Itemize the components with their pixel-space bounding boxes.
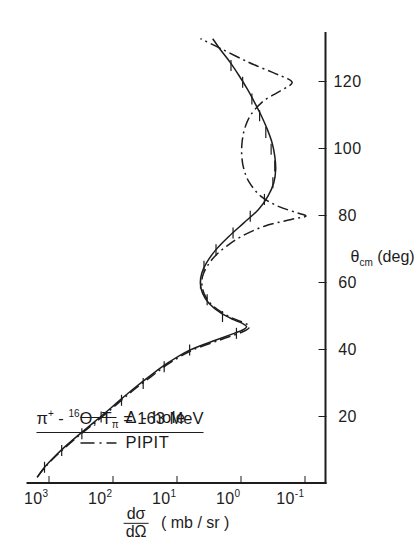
curve-canvas <box>26 32 326 484</box>
y-tick-label-1e-1: 10-1 <box>276 488 304 507</box>
x-axis-title: θcm (deg) <box>350 248 414 268</box>
x-tick-label-100: 100 <box>333 140 361 158</box>
x-tick-label-120: 120 <box>333 73 361 91</box>
y-axis-title: dσ dΩ ( mb / sr ) <box>123 506 229 541</box>
y-tick-1e2 <box>112 476 114 484</box>
x-axis-title-unit: (deg) <box>372 248 414 265</box>
x-tick-80 <box>318 215 326 217</box>
x-axis-title-theta: θ <box>350 248 359 265</box>
plot-area: 20406080100120 10310210110010-1 θcm (deg… <box>26 32 326 484</box>
y-tick-1e3 <box>48 476 50 484</box>
y-tick-label-1e0: 100 <box>215 488 240 507</box>
x-tick-label-40: 40 <box>338 341 357 359</box>
x-tick-label-60: 60 <box>338 274 357 292</box>
y-axis-title-denominator: dΩ <box>123 524 148 541</box>
figure-rotator: π+ - 16O, Tπ = 163 MeV Δ - hole PIPIT <box>0 0 419 558</box>
x-tick-60 <box>318 282 326 284</box>
y-tick-1e-1 <box>304 476 306 484</box>
x-tick-120 <box>318 81 326 83</box>
y-tick-1e0 <box>240 476 242 484</box>
x-tick-100 <box>318 148 326 150</box>
y-axis-title-unit: ( mb / sr ) <box>160 514 228 532</box>
y-tick-label-1e3: 103 <box>23 488 48 507</box>
curve-pipit <box>37 39 306 478</box>
y-tick-1e1 <box>176 476 178 484</box>
x-tick-20 <box>318 416 326 418</box>
x-tick-40 <box>318 349 326 351</box>
x-tick-label-80: 80 <box>338 207 357 225</box>
y-axis-title-numerator: dσ <box>123 506 148 524</box>
data-point-markers <box>44 60 274 473</box>
x-tick-label-20: 20 <box>338 408 357 426</box>
scattering-cross-section-figure: π+ - 16O, Tπ = 163 MeV Δ - hole PIPIT <box>0 0 419 558</box>
x-axis-title-subscript: cm <box>359 257 372 268</box>
curve-delta-hole <box>37 39 276 478</box>
y-tick-label-1e1: 101 <box>151 488 176 507</box>
y-tick-label-1e2: 102 <box>87 488 112 507</box>
